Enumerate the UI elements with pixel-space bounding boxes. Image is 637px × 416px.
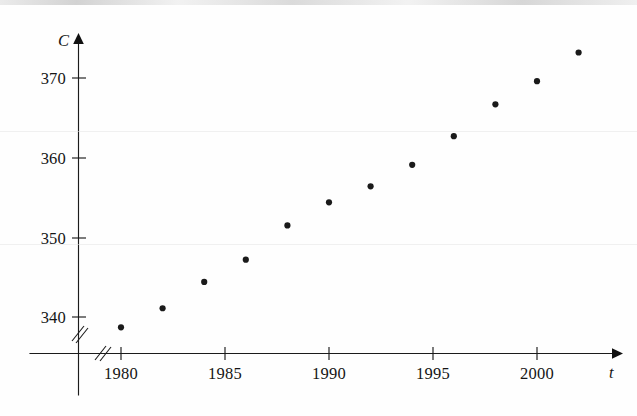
y-tick-label-370: 370 bbox=[41, 69, 66, 88]
data-point bbox=[284, 222, 290, 228]
x-axis-tick-labels: 1980 1985 1990 1995 2000 bbox=[104, 364, 554, 383]
data-point bbox=[201, 279, 207, 285]
axis-break-icon-y bbox=[72, 326, 88, 343]
plot-canvas: 370 360 350 340 1980 1985 1990 1995 2000… bbox=[0, 0, 637, 416]
x-tick-label-1990: 1990 bbox=[312, 364, 346, 383]
scatter-plot-figure: 370 360 350 340 1980 1985 1990 1995 2000… bbox=[0, 0, 637, 416]
x-axis-label: t bbox=[609, 363, 614, 382]
y-axis-label: C bbox=[58, 31, 70, 50]
x-tick-label-2000: 2000 bbox=[520, 364, 554, 383]
data-point bbox=[576, 49, 582, 55]
x-tick-label-1985: 1985 bbox=[208, 364, 242, 383]
data-point bbox=[326, 199, 332, 205]
data-point bbox=[160, 305, 166, 311]
data-point bbox=[118, 324, 124, 330]
x-tick-label-1980: 1980 bbox=[104, 364, 138, 383]
arrow-right-icon bbox=[612, 348, 623, 359]
y-tick-label-360: 360 bbox=[41, 149, 66, 168]
arrow-up-icon bbox=[73, 33, 84, 44]
data-point bbox=[409, 162, 415, 168]
data-point bbox=[534, 78, 540, 84]
data-point bbox=[368, 183, 374, 189]
y-tick-label-340: 340 bbox=[41, 308, 66, 327]
data-point-series bbox=[118, 49, 582, 330]
y-tick-label-350: 350 bbox=[41, 229, 66, 248]
x-tick-label-1995: 1995 bbox=[416, 364, 450, 383]
data-point bbox=[243, 257, 249, 263]
data-point bbox=[451, 133, 457, 139]
data-point bbox=[492, 101, 498, 107]
y-axis-tick-labels: 370 360 350 340 bbox=[41, 69, 66, 327]
